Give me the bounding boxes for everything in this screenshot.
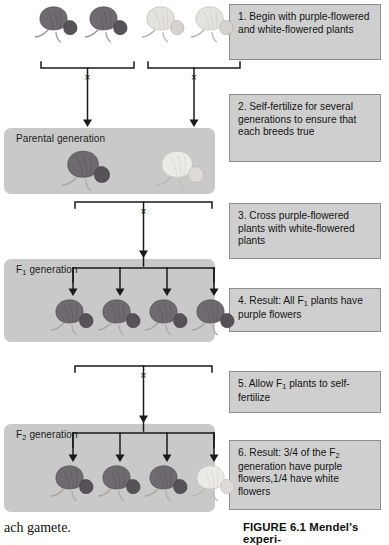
flower-f2-purple-3 bbox=[144, 463, 190, 503]
figure-caption: FIGURE 6.1 Mendel's experi- bbox=[243, 521, 389, 545]
bracket-purple-parents bbox=[41, 62, 134, 68]
flower-f1-purple-1 bbox=[50, 297, 96, 337]
flower-f1-purple-4 bbox=[191, 297, 237, 337]
flower-f2-purple-2 bbox=[97, 463, 143, 503]
flower-parental-purple bbox=[61, 148, 113, 193]
step-1-box: 1. Begin with purple-flowered and white-… bbox=[229, 4, 381, 60]
cross-symbol-parental-cross: × bbox=[141, 206, 147, 217]
step-3-text: 3. Cross purple-flowered plants with whi… bbox=[238, 210, 355, 246]
parental-generation-label: Parental generation bbox=[16, 133, 105, 144]
step-1-text: 1. Begin with purple-flowered and white-… bbox=[238, 11, 369, 35]
step-2-box: 2. Self-fertilize for several generation… bbox=[229, 94, 381, 162]
bracket-white-parents bbox=[148, 62, 240, 68]
cross-symbol-white-selfing: × bbox=[191, 72, 197, 83]
body-text-fragment: ach gamete. bbox=[4, 520, 71, 536]
flower-f2-white-1 bbox=[191, 463, 237, 503]
flower-f1-purple-3 bbox=[144, 297, 190, 337]
step-5-text-before: 5. Allow F bbox=[238, 378, 282, 389]
step-6-text-after: generation have purple flowers,1/4 have … bbox=[238, 461, 342, 497]
step-6-text-before: 6. Result: 3/4 of the F bbox=[238, 447, 335, 458]
cross-symbol-purple-selfing: × bbox=[85, 72, 91, 83]
flower-parental-white bbox=[155, 148, 207, 193]
step-5-subscript: 1 bbox=[282, 382, 286, 391]
f1-label-suffix: generation bbox=[27, 264, 78, 275]
flower-purple-parent-2 bbox=[84, 4, 130, 44]
flower-white-parent-1 bbox=[141, 4, 187, 44]
step-4-subscript: 1 bbox=[304, 299, 308, 308]
f1-label-subscript: 1 bbox=[22, 268, 26, 277]
step-4-text-before: 4. Result: All F bbox=[238, 295, 304, 306]
f2-label-subscript: 2 bbox=[22, 433, 26, 442]
step-4-box: 4. Result: All F1 plants have purple flo… bbox=[229, 288, 381, 332]
flower-white-parent-2 bbox=[190, 4, 236, 44]
step-3-box: 3. Cross purple-flowered plants with whi… bbox=[229, 203, 381, 259]
step-5-box: 5. Allow F1 plants to self-fertilize bbox=[229, 371, 381, 413]
flower-f1-purple-2 bbox=[97, 297, 143, 337]
cross-symbol-f1-selfing: × bbox=[141, 370, 147, 381]
f2-label-suffix: generation bbox=[27, 429, 78, 440]
step-6-box: 6. Result: 3/4 of the F2 generation have… bbox=[229, 440, 381, 510]
f2-generation-label: F2 generation bbox=[16, 429, 78, 440]
f1-generation-label: F1 generation bbox=[16, 264, 78, 275]
step-6-subscript: 2 bbox=[335, 451, 339, 460]
flower-purple-parent-1 bbox=[34, 4, 80, 44]
step-2-text: 2. Self-fertilize for several generation… bbox=[238, 101, 356, 137]
flower-f2-purple-1 bbox=[50, 463, 96, 503]
